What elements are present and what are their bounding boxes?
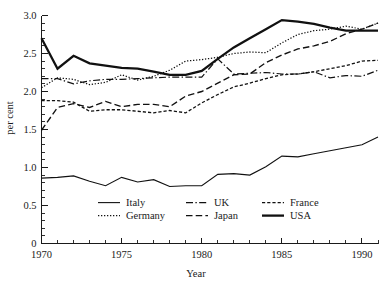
y-tick-label: 1.5 — [23, 124, 36, 135]
legend-label-japan: Japan — [214, 210, 239, 221]
y-tick-label: 2.5 — [23, 48, 36, 59]
legend-label-uk: UK — [214, 197, 230, 208]
x-tick-label: 1975 — [111, 249, 132, 260]
legend-label-germany: Germany — [126, 210, 166, 221]
x-axis-title: Year — [186, 268, 206, 279]
legend-label-italy: Italy — [126, 197, 146, 208]
x-tick-label: 1970 — [31, 249, 52, 260]
x-tick-label: 1985 — [271, 249, 292, 260]
legend-label-usa: USA — [290, 210, 311, 221]
line-chart-figure: 00.51.01.52.02.53.0 19701975198019851990… — [0, 0, 388, 285]
chart-plot-area: 00.51.01.52.02.53.0 19701975198019851990… — [0, 0, 388, 285]
x-tick-label: 1990 — [351, 249, 372, 260]
legend-label-france: France — [290, 197, 319, 208]
y-tick-label: 1.0 — [23, 162, 36, 173]
y-tick-label: 2.0 — [23, 86, 36, 97]
y-axis-title: per cent — [4, 101, 15, 135]
x-tick-label: 1980 — [191, 249, 212, 260]
y-tick-label: 0.5 — [23, 200, 36, 211]
y-tick-label: 0 — [31, 238, 36, 249]
y-tick-label: 3.0 — [23, 10, 36, 21]
